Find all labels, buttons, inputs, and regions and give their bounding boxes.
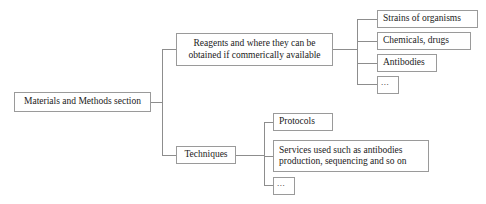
node-strains-of-organisms[interactable]: Strains of organisms bbox=[377, 10, 478, 28]
edge-trunk-techniques-children bbox=[264, 122, 265, 185]
edge-to-strains bbox=[357, 19, 378, 20]
node-services-used-label: Services used such as antibodies product… bbox=[279, 145, 406, 168]
node-antibodies[interactable]: Antibodies bbox=[377, 54, 437, 72]
edge-to-chemicals bbox=[357, 41, 378, 42]
tree-diagram: Materials and Methods section Reagents a… bbox=[0, 0, 486, 204]
node-root-label: Materials and Methods section bbox=[24, 96, 141, 108]
edge-techniques-stub bbox=[236, 155, 265, 156]
edge-trunk-to-reagents bbox=[162, 49, 177, 50]
node-antibodies-label: Antibodies bbox=[383, 57, 425, 69]
node-protocols[interactable]: Protocols bbox=[273, 113, 333, 131]
node-reagents-ellipsis[interactable]: ... bbox=[377, 76, 399, 94]
node-root[interactable]: Materials and Methods section bbox=[14, 92, 151, 112]
edge-trunk-level1 bbox=[162, 49, 163, 155]
edge-trunk-to-techniques bbox=[162, 155, 177, 156]
node-strains-of-organisms-label: Strains of organisms bbox=[383, 13, 461, 25]
node-techniques-label: Techniques bbox=[184, 149, 227, 161]
node-techniques-ellipsis-label: ... bbox=[277, 179, 285, 188]
node-reagents-ellipsis-label: ... bbox=[381, 78, 389, 87]
node-reagents[interactable]: Reagents and where they can be obtained … bbox=[176, 33, 333, 66]
edge-trunk-reagents-children bbox=[357, 19, 358, 84]
node-chemicals-drugs-label: Chemicals, drugs bbox=[383, 35, 449, 47]
node-protocols-label: Protocols bbox=[279, 116, 315, 128]
node-services-used[interactable]: Services used such as antibodies product… bbox=[273, 140, 429, 172]
node-techniques[interactable]: Techniques bbox=[176, 146, 236, 164]
node-chemicals-drugs[interactable]: Chemicals, drugs bbox=[377, 32, 471, 50]
node-techniques-ellipsis[interactable]: ... bbox=[273, 177, 295, 195]
edge-reagents-stub bbox=[333, 49, 358, 50]
edge-to-antibodies bbox=[357, 63, 378, 64]
node-reagents-label: Reagents and where they can be obtained … bbox=[188, 38, 320, 61]
edge-to-reagents-ellipsis bbox=[357, 84, 378, 85]
